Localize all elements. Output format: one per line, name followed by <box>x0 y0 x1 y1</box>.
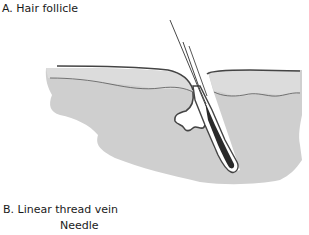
section-b-title: B. Linear thread vein <box>3 203 118 216</box>
needle-label: Needle <box>60 219 99 232</box>
hair-follicle-diagram <box>0 0 309 235</box>
